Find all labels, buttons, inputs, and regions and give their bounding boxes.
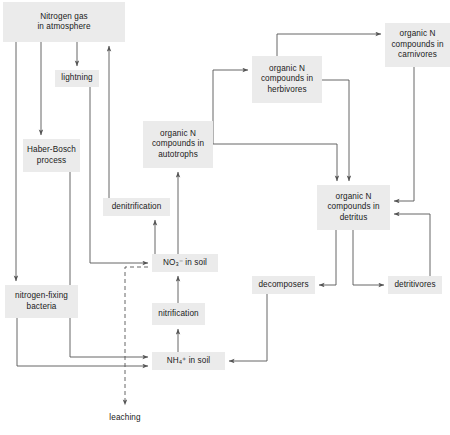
edge-autotrophs-to-detritus (213, 144, 337, 181)
node-haber[interactable]: Haber-Boschprocess (23, 139, 80, 172)
edge-detritus-to-decomposers (319, 230, 336, 285)
edge-autotrophs-to-herbivores (213, 70, 248, 144)
node-label-lightning: lightning (59, 73, 95, 84)
node-label-denitrify: denitrification (107, 202, 166, 213)
node-label-atmosphere: Nitrogen gasin atmosphere (7, 12, 121, 33)
edge-detritivores-to-detritus (394, 214, 430, 276)
edge-herbivores-to-detritus (322, 80, 349, 181)
node-nitrate[interactable]: NO₃⁻ in soil (152, 254, 218, 272)
node-label-leaching: leaching (108, 413, 142, 424)
node-label-herbivores: organic Ncompounds inherbivores (256, 64, 318, 96)
node-nitrification[interactable]: nitrification (152, 303, 205, 325)
edge-detritus-to-detritivores (353, 230, 384, 285)
node-denitrify[interactable]: denitrification (103, 198, 170, 216)
node-label-decomposers: decomposers (256, 280, 311, 291)
edge-lightning-to-nitrate (90, 87, 148, 263)
node-label-ammonium: NH₄⁺ in soil (156, 356, 221, 367)
node-label-nitrate: NO₃⁻ in soil (156, 258, 214, 269)
edge-herbivores-to-carnivores (277, 34, 381, 56)
node-label-detritus: organic Ncompounds indetritus (321, 192, 386, 224)
node-nfixing[interactable]: nitrogen-fixingbacteria (5, 285, 78, 318)
node-autotrophs[interactable]: organic Ncompounds inautotrophs (143, 121, 213, 168)
node-carnivores[interactable]: organic Ncompounds incarnivores (385, 23, 450, 67)
edge-nitrate-to-leaching (125, 267, 148, 405)
node-atmosphere[interactable]: Nitrogen gasin atmosphere (3, 2, 125, 42)
node-label-carnivores: organic Ncompounds incarnivores (389, 29, 446, 61)
node-lightning[interactable]: lightning (55, 70, 99, 87)
node-decomposers[interactable]: decomposers (252, 276, 315, 294)
node-label-detritivores: detritivores (392, 280, 438, 291)
edge-carnivores-to-detritus (394, 67, 414, 201)
node-label-nitrification: nitrification (156, 309, 201, 320)
node-herbivores[interactable]: organic Ncompounds inherbivores (252, 56, 322, 103)
node-leaching[interactable]: leaching (104, 411, 146, 425)
edge-decomposers-to-ammonium (229, 294, 267, 361)
node-label-haber: Haber-Boschprocess (27, 145, 76, 166)
node-detritus[interactable]: organic Ncompounds indetritus (317, 185, 390, 230)
node-detritivores[interactable]: detritivores (388, 276, 442, 294)
node-label-autotrophs: organic Ncompounds inautotrophs (147, 129, 209, 161)
node-ammonium[interactable]: NH₄⁺ in soil (152, 352, 225, 370)
node-label-nfixing: nitrogen-fixingbacteria (9, 291, 74, 312)
edge-nfixing-to-ammonium (17, 318, 148, 366)
